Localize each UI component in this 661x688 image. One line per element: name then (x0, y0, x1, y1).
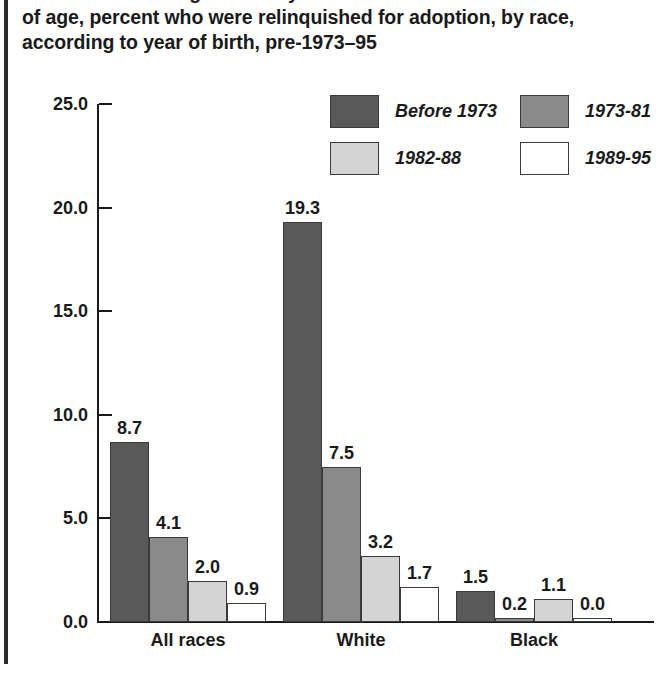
y-axis-tick-label: 10.0 (12, 404, 88, 425)
legend-label: 1982-88 (395, 148, 461, 169)
bar[interactable] (495, 618, 534, 622)
legend-swatch (520, 95, 569, 128)
bar-value-label: 0.0 (563, 594, 623, 615)
bar-wrap: 1.1 (534, 104, 573, 622)
legend-item[interactable]: Before 1973 (330, 95, 497, 128)
bar[interactable] (227, 603, 266, 622)
bar-wrap: 1.5 (456, 104, 495, 622)
legend-item[interactable]: 1989-95 (520, 142, 651, 175)
x-axis-category-label: All races (110, 630, 266, 651)
y-axis-tick-label: 20.0 (12, 197, 88, 218)
x-axis-category-label: Black (456, 630, 612, 651)
bar[interactable] (400, 587, 439, 622)
bar-value-label: 1.7 (390, 563, 450, 584)
bar-wrap: 19.3 (283, 104, 322, 622)
bar[interactable] (573, 618, 612, 622)
legend-swatch (330, 142, 379, 175)
bar-wrap: 2.0 (188, 104, 227, 622)
bar-wrap: 3.2 (361, 104, 400, 622)
legend-item[interactable]: 1973-81 (520, 95, 651, 128)
legend-label: 1973-81 (585, 101, 651, 122)
bar-wrap: 0.2 (495, 104, 534, 622)
bar-wrap: 1.7 (400, 104, 439, 622)
legend-label: Before 1973 (395, 101, 497, 122)
bar-wrap: 4.1 (149, 104, 188, 622)
legend-label: 1989-95 (585, 148, 651, 169)
y-axis-tick-label: 25.0 (12, 94, 88, 115)
bar-chart: 0.05.010.015.020.025.0 8.74.12.00.919.37… (0, 0, 661, 688)
bar-wrap: 0.0 (573, 104, 612, 622)
chart-legend: Before 19731973-811982-881989-95 (330, 95, 655, 181)
x-axis-category-label: White (283, 630, 439, 651)
legend-item[interactable]: 1982-88 (330, 142, 461, 175)
bar-wrap: 0.9 (227, 104, 266, 622)
y-axis-tick-label: 15.0 (12, 301, 88, 322)
y-axis-tick-label: 0.0 (12, 612, 88, 633)
bar[interactable] (283, 222, 322, 622)
y-axis-tick-label: 5.0 (12, 508, 88, 529)
legend-swatch (520, 142, 569, 175)
bar[interactable] (149, 537, 188, 622)
bar-wrap: 8.7 (110, 104, 149, 622)
bar-value-label: 0.9 (217, 579, 277, 600)
y-axis-line (97, 104, 99, 623)
legend-swatch (330, 95, 379, 128)
